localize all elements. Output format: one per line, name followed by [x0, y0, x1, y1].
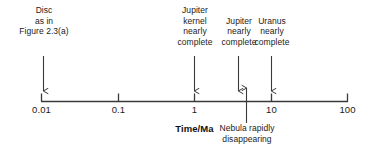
tick-label-100: 100 [330, 104, 365, 115]
timeline-figure: Disc as in Figure 2.3(a) Jupiter kernel … [0, 0, 369, 151]
tick-label-1: 1 [180, 104, 209, 115]
tick-label-0-01: 0.01 [21, 104, 62, 115]
callout-disc: Disc as in Figure 2.3(a) [4, 5, 84, 37]
tick-label-10: 10 [257, 104, 286, 115]
callout-nebula: Nebula rapidly disappearing [208, 123, 286, 144]
tick-label-0-1: 0.1 [101, 104, 136, 115]
callout-uranus: Uranus nearly complete [244, 16, 300, 48]
